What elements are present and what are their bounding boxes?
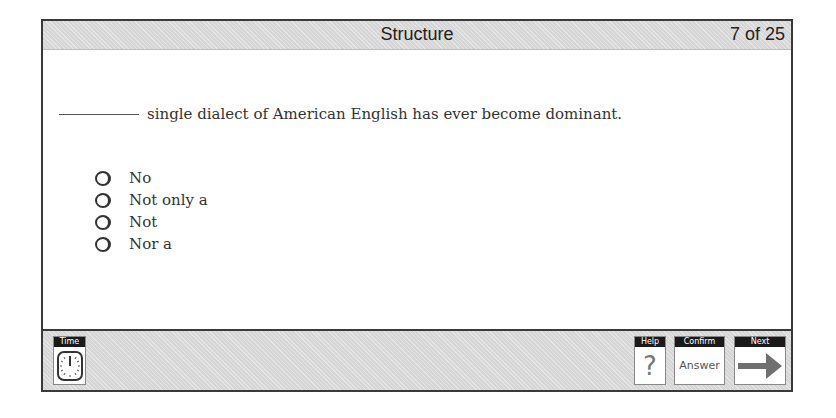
bottom-toolbar: Time (43, 329, 791, 390)
next-button[interactable]: Next (734, 336, 786, 385)
option-label: No (129, 169, 151, 187)
option-label: Not only a (129, 191, 208, 209)
option-label: Not (129, 213, 157, 231)
title-bar: Structure 7 of 25 (43, 21, 791, 50)
answer-blank (59, 114, 139, 115)
next-label: Next (735, 337, 785, 347)
confirm-label: Confirm (675, 337, 724, 347)
question-counter: 7 of 25 (730, 24, 785, 45)
section-title: Structure (43, 24, 791, 45)
confirm-answer-button[interactable]: Confirm Answer (674, 336, 725, 385)
option-not[interactable]: Not (93, 211, 208, 233)
clock-icon (56, 350, 84, 382)
help-label: Help (635, 337, 665, 347)
option-label: Nor a (129, 235, 172, 253)
option-no[interactable]: No (93, 167, 208, 189)
help-button[interactable]: Help ? (634, 336, 666, 385)
question-mark-icon: ? (643, 353, 657, 379)
answer-label: Answer (679, 359, 720, 372)
test-window: Structure 7 of 25 single dialect of Amer… (41, 19, 793, 392)
option-nor-a[interactable]: Nor a (93, 233, 208, 255)
time-label: Time (54, 337, 85, 347)
radio-button-icon[interactable] (95, 237, 111, 252)
answer-options: No Not only a Not Nor a (93, 167, 208, 255)
question-text: single dialect of American English has e… (59, 105, 622, 123)
option-not-only-a[interactable]: Not only a (93, 189, 208, 211)
question-sentence: single dialect of American English has e… (147, 105, 622, 123)
radio-button-icon[interactable] (95, 171, 111, 186)
radio-button-icon[interactable] (95, 193, 111, 208)
time-button[interactable]: Time (53, 336, 86, 385)
radio-button-icon[interactable] (95, 215, 111, 230)
arrow-right-icon (736, 349, 784, 383)
